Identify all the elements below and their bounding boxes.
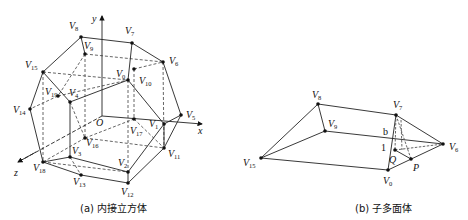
vertex-label-v9: V9 bbox=[328, 118, 337, 130]
z-axis bbox=[18, 152, 36, 162]
vertex-v9 bbox=[83, 52, 87, 56]
vertex-label-v1: V1 bbox=[149, 118, 158, 130]
point-q bbox=[393, 148, 397, 152]
polyhedron-diagram: V8V7V9V6V15V0V10V19V4V14V5V1V17V16V3V11V… bbox=[0, 0, 468, 220]
vertex-label-v2: V2 bbox=[118, 157, 127, 169]
vertex-label-v15: V15 bbox=[243, 157, 256, 169]
vertex-v12 bbox=[126, 181, 130, 185]
z-axis-label: z bbox=[13, 167, 18, 178]
vertex-v8 bbox=[79, 35, 83, 39]
label-q: Q bbox=[389, 154, 397, 165]
vertex-v7 bbox=[130, 41, 134, 45]
vertex-label-v11: V11 bbox=[168, 148, 180, 160]
vertex-label-v8: V8 bbox=[312, 89, 321, 101]
y-axis-label: y bbox=[91, 13, 97, 24]
figure-b-sub-polyhedron bbox=[261, 104, 443, 170]
vertex-label-v8: V8 bbox=[69, 20, 78, 32]
vertex-label-v10: V10 bbox=[139, 75, 152, 87]
label-p: P bbox=[412, 162, 419, 173]
vertex-v4 bbox=[68, 100, 72, 104]
vertex-v15 bbox=[41, 70, 45, 74]
vertex-label-v13: V13 bbox=[73, 176, 86, 188]
figure-a-vertex-labels: V8V7V9V6V15V0V10V19V4V14V5V1V17V16V3V11V… bbox=[13, 20, 195, 198]
figure-b-vertex-labels: V8V7V9V6V15V0 bbox=[243, 89, 459, 187]
vertex-label-v6: V6 bbox=[449, 141, 459, 153]
vertex-label-v0: V0 bbox=[383, 175, 392, 187]
vertex-v0 bbox=[386, 168, 390, 172]
vertex-v6 bbox=[441, 142, 445, 146]
vertex-v15 bbox=[259, 156, 263, 160]
vertex-label-v14: V14 bbox=[13, 104, 26, 116]
origin-label: O bbox=[96, 117, 103, 128]
vertex-label-v17: V17 bbox=[130, 125, 143, 137]
figure-a-vertex-points bbox=[28, 35, 183, 185]
vertex-v2 bbox=[126, 170, 130, 174]
vertex-label-v7: V7 bbox=[125, 25, 135, 37]
vertex-v8 bbox=[316, 102, 320, 106]
vertex-label-v7: V7 bbox=[393, 99, 403, 111]
vertex-v11 bbox=[162, 146, 166, 150]
vertex-v17 bbox=[132, 117, 136, 121]
vertex-label-v15: V15 bbox=[25, 59, 38, 71]
vertex-label-v5: V5 bbox=[186, 109, 195, 121]
vertex-v9 bbox=[323, 129, 327, 133]
caption-b: (b) 子多面体 bbox=[355, 202, 412, 214]
x-axis-label: x bbox=[197, 125, 203, 136]
hidden-edges bbox=[30, 54, 164, 175]
vertex-v13 bbox=[79, 173, 83, 177]
vertex-label-v9: V9 bbox=[84, 40, 93, 52]
vertex-label-v18: V18 bbox=[33, 162, 46, 174]
vertex-v7 bbox=[394, 113, 398, 117]
vertex-v18 bbox=[41, 160, 45, 164]
vertex-label-v12: V12 bbox=[121, 186, 134, 198]
vertex-label-v6: V6 bbox=[169, 55, 179, 67]
vertex-v6 bbox=[161, 60, 165, 64]
vertex-label-v4: V4 bbox=[69, 87, 79, 99]
vertex-v0 bbox=[126, 78, 130, 82]
caption-a: (a) 内接立方体 bbox=[80, 202, 147, 214]
label-b: b bbox=[383, 126, 388, 137]
point-p bbox=[409, 157, 413, 161]
visible-edges bbox=[30, 37, 181, 183]
vertex-label-v19: V19 bbox=[45, 86, 58, 98]
vertex-label-v0: V0 bbox=[116, 68, 125, 80]
vertex-v1 bbox=[162, 122, 166, 126]
label-1: 1 bbox=[381, 142, 386, 153]
vertex-v14 bbox=[28, 107, 32, 111]
vertex-v5 bbox=[179, 113, 183, 117]
vertex-v10 bbox=[132, 67, 136, 71]
vertex-label-v3: V3 bbox=[72, 145, 81, 157]
